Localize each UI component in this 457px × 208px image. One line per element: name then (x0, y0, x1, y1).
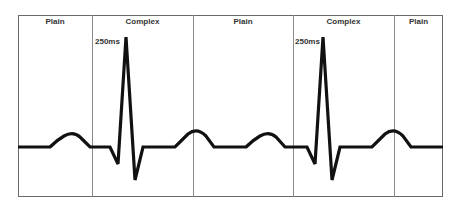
ecg-waveform (0, 0, 457, 208)
